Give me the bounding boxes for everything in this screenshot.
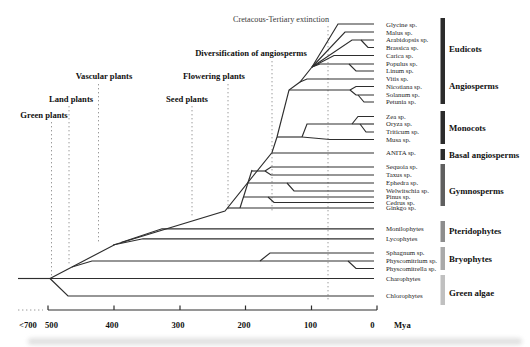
branch-gymnosperm-rise xyxy=(240,170,252,208)
event-annotations: Cretacous-Tertiary extinction Diversific… xyxy=(20,15,329,121)
branch-nicotiana xyxy=(350,87,374,91)
tip-label-monilophytes: Monilophytes xyxy=(386,225,424,232)
basal-angiosperms-group-bar xyxy=(441,149,446,160)
axis-label-400: 400 xyxy=(106,320,119,330)
vascular-plants-label: Vascular plants xyxy=(76,71,133,81)
branch-moss-stem-physcomitrium xyxy=(72,261,374,267)
axis-label-200: 200 xyxy=(238,320,251,330)
kt-extinction-label: Cretacous-Tertiary extinction xyxy=(233,15,329,24)
land-plants-label: Land plants xyxy=(49,94,94,104)
axis-label-300: 300 xyxy=(172,320,185,330)
branch-musa xyxy=(302,137,374,140)
tip-label-malus: Malus sp. xyxy=(386,29,413,36)
group-label-gymnosperms: Gymnosperms xyxy=(449,186,504,196)
tip-label-vitis: Vitis sp. xyxy=(386,75,409,82)
tip-label-arabidopsis: Arabidopsis sp. xyxy=(386,36,429,43)
tree-canvas: <700 500 400 300 200 100 0 Mya Cretacous… xyxy=(0,0,530,347)
branch-petunia xyxy=(358,95,374,102)
flowering-plants-label: Flowering plants xyxy=(183,71,245,81)
group-label-angiosperms: Angiosperms xyxy=(449,81,499,91)
pteridophytes-group-bar xyxy=(441,221,446,242)
tip-label-charophytes: Charophytes xyxy=(386,275,421,282)
branch-sphagnum xyxy=(260,253,374,261)
tip-label-taxus: Taxus sp. xyxy=(386,171,412,178)
branch-brassica xyxy=(361,40,374,48)
group-label-bryophytes: Bryophytes xyxy=(449,254,493,264)
group-label-basal-angiosperms: Basal angiosperms xyxy=(449,150,520,160)
group-label-monocots: Monocots xyxy=(449,123,486,133)
tip-label-sphagnum: Sphagnum sp. xyxy=(386,249,425,256)
diversification-label: Diversification of angiosperms xyxy=(195,48,307,58)
tip-label-petunia: Petunia sp. xyxy=(386,98,416,105)
tip-labels: Glycine sp. Malus sp. Arabidopsis sp. Br… xyxy=(386,21,437,300)
tip-label-populus: Populus sp. xyxy=(386,60,418,67)
branch-grass-stem xyxy=(302,124,352,137)
tree-branches xyxy=(18,24,374,296)
tip-label-glycine: Glycine sp. xyxy=(386,21,417,28)
monocots-group-bar xyxy=(441,111,446,144)
branch-lycophytes xyxy=(113,239,374,245)
seed-plants-label: Seed plants xyxy=(166,94,208,104)
group-bars xyxy=(441,18,446,305)
branch-welwitschia xyxy=(287,183,374,191)
axis-unit-label: Mya xyxy=(394,320,411,330)
tip-label-ginkgo: Ginkgo sp. xyxy=(386,204,416,211)
tip-label-oryza: Oryza sp. xyxy=(386,120,412,127)
green-plants-label: Green plants xyxy=(20,110,68,120)
angiosperms-group-bar xyxy=(441,18,446,104)
branch-triticum xyxy=(360,124,374,132)
group-label-green-algae: Green algae xyxy=(449,288,494,298)
branch-chlorophytes xyxy=(50,279,374,297)
tip-label-zea: Zea sp. xyxy=(386,113,406,120)
tip-label-physcomitrella: Physcomitrella sp. xyxy=(386,265,437,272)
tip-label-lycophytes: Lycophytes xyxy=(386,235,418,242)
bryophytes-group-bar xyxy=(441,247,446,270)
tip-label-musa: Musa sp. xyxy=(386,136,411,143)
branch-solanum xyxy=(350,90,374,95)
group-label-eudicots: Eudicots xyxy=(449,44,482,54)
tip-label-carica: Carica sp. xyxy=(386,52,413,59)
axis-label-0: 0 xyxy=(370,320,374,330)
axis-label-500: 500 xyxy=(45,320,58,330)
tip-label-linum: Linum sp. xyxy=(386,67,414,74)
tip-label-brassica: Brassica sp. xyxy=(386,44,419,51)
branch-cedrus xyxy=(268,197,374,203)
tip-label-anita: ANITA sp. xyxy=(386,149,416,156)
branch-zea xyxy=(352,117,374,125)
tip-label-chlorophytes: Chlorophytes xyxy=(386,292,423,299)
group-labels: Eudicots Angiosperms Monocots Basal angi… xyxy=(449,44,520,298)
axis-label-700: <700 xyxy=(19,320,37,330)
green-algae-group-bar xyxy=(441,275,446,305)
tip-label-nicotiana: Nicotiana sp. xyxy=(386,83,422,90)
tip-label-physcomitrium: Physcomitrium sp. xyxy=(386,257,437,264)
branch-populus xyxy=(312,64,374,67)
tip-label-ephedra: Ephedra sp. xyxy=(386,179,418,186)
branch-sequoia xyxy=(265,167,374,171)
branch-physcomitrella xyxy=(348,261,374,269)
branch-vitis xyxy=(300,79,374,82)
axis-label-100: 100 xyxy=(304,320,317,330)
group-label-pteridophytes: Pteridophytes xyxy=(449,226,502,236)
tip-label-solanum: Solanum sp. xyxy=(386,91,420,98)
tip-label-triticum: Triticum sp. xyxy=(386,128,419,135)
cropped-caption-blur xyxy=(28,338,522,345)
branch-linum xyxy=(349,64,374,71)
time-axis: <700 500 400 300 200 100 0 Mya xyxy=(18,306,411,331)
phylogenetic-tree-figure: <700 500 400 300 200 100 0 Mya Cretacous… xyxy=(0,0,530,347)
tip-label-sequoia: Sequoia sp. xyxy=(386,163,418,170)
gymnosperms-group-bar xyxy=(441,164,446,206)
branch-taxus xyxy=(265,171,374,175)
